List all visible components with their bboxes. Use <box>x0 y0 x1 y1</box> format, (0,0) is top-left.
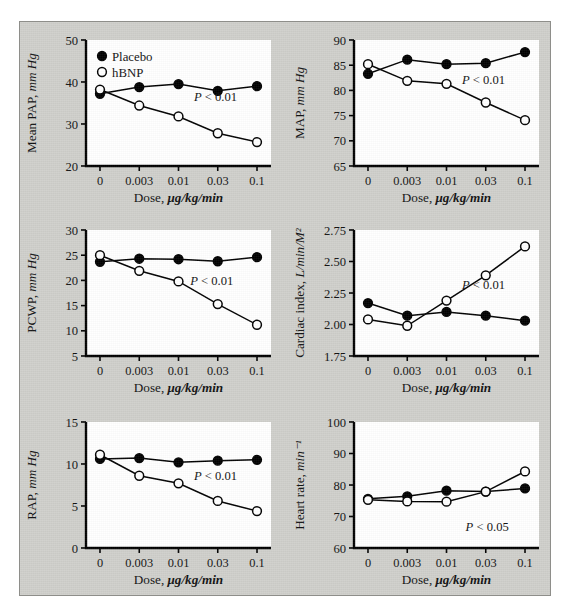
datapoint-cardiac-index-1-2 <box>442 296 451 305</box>
datapoint-mean-pap-1-2 <box>174 112 183 121</box>
chart-heart-rate: 6070809010000.0030.010.030.1Dose, μg/kg/… <box>288 404 550 592</box>
xtick-label-cardiac-index-3: 0.03 <box>475 364 497 378</box>
datapoint-heart-rate-1-1 <box>403 497 412 506</box>
datapoint-mean-pap-1-0 <box>96 85 105 94</box>
datapoint-map-1-2 <box>442 79 451 88</box>
ytick-label-map-4: 85 <box>333 59 346 73</box>
xtick-label-cardiac-index-0: 0 <box>365 364 371 378</box>
yaxis-label-map: MAP, mm Hg <box>292 67 307 140</box>
xaxis-label-cardiac-index: Dose, μg/kg/min <box>402 380 491 395</box>
plot-area-heart-rate <box>354 422 539 548</box>
xtick-label-heart-rate-3: 0.03 <box>475 556 497 570</box>
chart-pcwp: 5101520253000.0030.010.030.1Dose, μg/kg/… <box>20 212 282 400</box>
chart-cell-pcwp: 5101520253000.0030.010.030.1Dose, μg/kg/… <box>20 212 282 400</box>
xtick-label-rap-2: 0.01 <box>168 556 190 570</box>
ytick-label-heart-rate-1: 70 <box>333 510 346 524</box>
chart-mean-pap: 2030405000.0030.010.030.1Dose, μg/kg/min… <box>20 22 282 210</box>
pvalue-annotation-cardiac-index: P < 0.01 <box>461 278 505 292</box>
ytick-label-heart-rate-0: 60 <box>333 542 346 556</box>
xtick-label-map-0: 0 <box>365 174 371 188</box>
datapoint-mean-pap-1-3 <box>213 129 222 138</box>
xtick-label-heart-rate-2: 0.01 <box>436 556 458 570</box>
datapoint-heart-rate-1-3 <box>481 487 490 496</box>
xtick-label-mean-pap-3: 0.03 <box>207 174 229 188</box>
figure-panel: 2030405000.0030.010.030.1Dose, μg/kg/min… <box>20 22 550 595</box>
datapoint-map-1-3 <box>481 98 490 107</box>
ytick-label-rap-0: 0 <box>72 542 78 556</box>
ytick-label-mean-pap-1: 30 <box>65 118 78 132</box>
ytick-label-pcwp-0: 5 <box>72 350 78 364</box>
xtick-label-pcwp-3: 0.03 <box>207 364 229 378</box>
datapoint-pcwp-1-1 <box>135 266 144 275</box>
datapoint-pcwp-0-2 <box>174 255 183 264</box>
datapoint-cardiac-index-1-4 <box>521 242 530 251</box>
datapoint-cardiac-index-0-4 <box>521 316 530 325</box>
ytick-label-cardiac-index-3: 2.50 <box>324 255 346 269</box>
ytick-label-cardiac-index-0: 1.75 <box>324 350 346 364</box>
datapoint-map-0-3 <box>481 59 490 68</box>
datapoint-pcwp-1-2 <box>174 277 183 286</box>
datapoint-heart-rate-1-2 <box>442 497 451 506</box>
ytick-label-pcwp-3: 20 <box>65 274 78 288</box>
xaxis-label-rap: Dose, μg/kg/min <box>134 572 223 587</box>
xtick-label-mean-pap-2: 0.01 <box>168 174 190 188</box>
xtick-label-map-2: 0.01 <box>436 174 458 188</box>
chart-cell-rap: 05101500.0030.010.030.1Dose, μg/kg/minRA… <box>20 404 282 592</box>
datapoint-cardiac-index-1-1 <box>403 321 412 330</box>
datapoint-cardiac-index-1-0 <box>364 315 373 324</box>
xaxis-label-map: Dose, μg/kg/min <box>402 190 491 205</box>
xtick-label-mean-pap-1: 0.003 <box>125 174 153 188</box>
ytick-label-pcwp-4: 25 <box>65 249 78 263</box>
ytick-label-cardiac-index-4: 2.75 <box>324 224 346 238</box>
xtick-label-pcwp-1: 0.003 <box>125 364 153 378</box>
ytick-label-cardiac-index-2: 2.25 <box>324 287 346 301</box>
datapoint-rap-0-1 <box>135 454 144 463</box>
datapoint-pcwp-1-3 <box>213 300 222 309</box>
ytick-label-pcwp-5: 30 <box>65 224 78 238</box>
legend-marker-hbnp <box>98 68 107 77</box>
pvalue-annotation-map: P < 0.01 <box>461 73 505 87</box>
xtick-label-map-3: 0.03 <box>475 174 497 188</box>
datapoint-pcwp-0-1 <box>135 254 144 263</box>
ytick-label-rap-3: 15 <box>65 416 78 430</box>
ytick-label-pcwp-2: 15 <box>65 299 78 313</box>
ytick-label-heart-rate-4: 100 <box>327 416 346 430</box>
datapoint-rap-0-4 <box>253 455 262 464</box>
datapoint-mean-pap-1-4 <box>253 138 262 147</box>
ytick-label-cardiac-index-1: 2.00 <box>324 318 346 332</box>
yaxis-label-rap: RAP, mm Hg <box>24 450 39 520</box>
datapoint-heart-rate-1-0 <box>364 495 373 504</box>
datapoint-map-0-4 <box>521 48 530 57</box>
xtick-label-heart-rate-0: 0 <box>365 556 371 570</box>
ytick-label-map-5: 90 <box>333 34 346 48</box>
xtick-label-map-4: 0.1 <box>517 174 533 188</box>
plot-area-pcwp <box>86 230 271 356</box>
datapoint-mean-pap-1-1 <box>135 101 144 110</box>
datapoint-map-0-0 <box>364 69 373 78</box>
ytick-label-rap-2: 10 <box>65 458 78 472</box>
xtick-label-cardiac-index-2: 0.01 <box>436 364 458 378</box>
chart-cell-cardiac-index: 1.752.002.252.502.7500.0030.010.030.1Dos… <box>288 212 550 400</box>
datapoint-rap-0-3 <box>213 456 222 465</box>
chart-cell-heart-rate: 6070809010000.0030.010.030.1Dose, μg/kg/… <box>288 404 550 592</box>
datapoint-cardiac-index-0-3 <box>481 311 490 320</box>
xtick-label-heart-rate-1: 0.003 <box>393 556 421 570</box>
xtick-label-mean-pap-0: 0 <box>97 174 103 188</box>
xtick-label-cardiac-index-1: 0.003 <box>393 364 421 378</box>
chart-cell-mean-pap: 2030405000.0030.010.030.1Dose, μg/kg/min… <box>20 22 282 210</box>
chart-map: 65707580859000.0030.010.030.1Dose, μg/kg… <box>288 22 550 210</box>
datapoint-map-0-2 <box>442 60 451 69</box>
datapoint-cardiac-index-0-0 <box>364 299 373 308</box>
xtick-label-pcwp-2: 0.01 <box>168 364 190 378</box>
legend-marker-placebo <box>98 52 107 61</box>
chart-cardiac-index: 1.752.002.252.502.7500.0030.010.030.1Dos… <box>288 212 550 400</box>
datapoint-heart-rate-1-4 <box>521 467 530 476</box>
ytick-label-map-2: 75 <box>333 109 346 123</box>
xtick-label-rap-3: 0.03 <box>207 556 229 570</box>
xtick-label-rap-4: 0.1 <box>249 556 265 570</box>
datapoint-map-0-1 <box>403 55 412 64</box>
datapoint-heart-rate-0-2 <box>442 486 451 495</box>
xtick-label-rap-0: 0 <box>97 556 103 570</box>
xtick-label-mean-pap-4: 0.1 <box>249 174 265 188</box>
ytick-label-pcwp-1: 10 <box>65 324 78 338</box>
